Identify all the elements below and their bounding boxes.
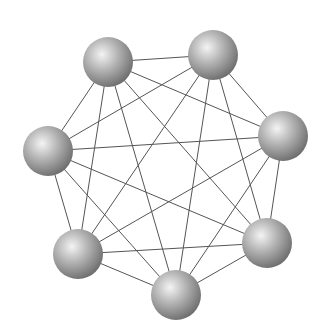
- edge-n1-n3: [108, 62, 283, 136]
- edge-n3-n4: [48, 136, 283, 151]
- nodes-group: [23, 30, 308, 320]
- complete-graph-diagram: [0, 0, 332, 332]
- edge-n5-n6: [78, 243, 267, 254]
- sphere-node-n6: [242, 218, 292, 268]
- sphere-node-n5: [53, 229, 103, 279]
- sphere-node-n1: [83, 37, 133, 87]
- sphere-node-n2: [188, 30, 238, 80]
- edge-n1-n5: [78, 62, 108, 254]
- sphere-node-n7: [151, 270, 201, 320]
- edge-n3-n7: [176, 136, 283, 295]
- sphere-node-n3: [258, 111, 308, 161]
- edge-n2-n6: [213, 55, 267, 243]
- edge-n1-n7: [108, 62, 176, 295]
- sphere-node-n4: [23, 126, 73, 176]
